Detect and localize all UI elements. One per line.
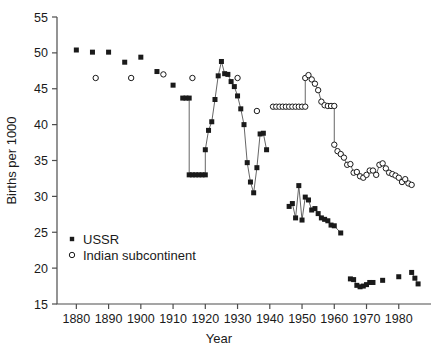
data-point-indian-subcontinent bbox=[128, 75, 133, 80]
data-point-ussr bbox=[370, 280, 375, 285]
data-point-ussr bbox=[187, 96, 192, 101]
data-point-indian-subcontinent bbox=[341, 155, 346, 160]
data-point-ussr bbox=[396, 274, 401, 279]
y-tick-label: 55 bbox=[34, 11, 48, 25]
y-tick-label: 30 bbox=[34, 190, 48, 204]
x-tick-label: 1890 bbox=[95, 312, 123, 326]
y-axis-title: Births per 1000 bbox=[4, 116, 19, 204]
data-point-ussr bbox=[338, 230, 343, 235]
data-point-indian-subcontinent bbox=[312, 81, 317, 86]
data-point-ussr bbox=[251, 190, 256, 195]
data-point-ussr bbox=[203, 147, 208, 152]
y-axis-tick-labels: 152025303540455055 bbox=[34, 11, 48, 312]
legend-label: Indian subcontinent bbox=[83, 248, 196, 263]
data-point-ussr bbox=[409, 270, 414, 275]
data-point-ussr bbox=[316, 211, 321, 216]
x-tick-label: 1970 bbox=[353, 312, 381, 326]
x-tick-label: 1960 bbox=[320, 312, 348, 326]
data-point-indian-subcontinent bbox=[93, 75, 98, 80]
data-point-indian-subcontinent bbox=[373, 172, 378, 177]
data-point-ussr bbox=[332, 223, 337, 228]
x-tick-label: 1950 bbox=[288, 312, 316, 326]
data-point-indian-subcontinent bbox=[380, 161, 385, 166]
data-point-ussr bbox=[248, 180, 253, 185]
x-tick-label: 1940 bbox=[256, 312, 284, 326]
data-point-ussr bbox=[216, 73, 221, 78]
y-tick-label: 50 bbox=[34, 46, 48, 60]
data-point-ussr bbox=[325, 218, 330, 223]
data-point-indian-subcontinent bbox=[315, 87, 320, 92]
x-tick-label: 1980 bbox=[385, 312, 413, 326]
data-point-ussr bbox=[90, 50, 95, 55]
data-point-ussr bbox=[229, 79, 234, 84]
x-tick-label: 1920 bbox=[191, 312, 219, 326]
data-point-ussr bbox=[306, 197, 311, 202]
data-point-ussr bbox=[245, 160, 250, 165]
data-point-ussr bbox=[242, 122, 247, 127]
data-point-ussr bbox=[212, 97, 217, 102]
data-point-ussr bbox=[225, 72, 230, 77]
legend-marker-filled-square-icon bbox=[70, 237, 74, 241]
data-point-ussr bbox=[74, 48, 79, 53]
legend-item-indian-subcontinent[interactable]: Indian subcontinent bbox=[69, 248, 196, 263]
data-point-ussr bbox=[296, 183, 301, 188]
y-tick-label: 20 bbox=[34, 262, 48, 276]
legend-label: USSR bbox=[83, 232, 119, 247]
data-point-indian-subcontinent bbox=[235, 75, 240, 80]
x-tick-label: 1900 bbox=[127, 312, 155, 326]
data-point-ussr bbox=[171, 83, 176, 88]
data-point-ussr bbox=[219, 59, 224, 64]
data-point-ussr bbox=[203, 172, 208, 177]
data-point-ussr bbox=[412, 276, 417, 281]
x-tick-label: 1930 bbox=[224, 312, 252, 326]
y-tick-label: 15 bbox=[34, 298, 48, 312]
data-point-indian-subcontinent bbox=[161, 72, 166, 77]
data-point-ussr bbox=[106, 50, 111, 55]
data-point-indian-subcontinent bbox=[332, 103, 337, 108]
data-point-ussr bbox=[290, 201, 295, 206]
data-point-ussr bbox=[312, 206, 317, 211]
data-point-ussr bbox=[351, 277, 356, 282]
data-point-ussr bbox=[254, 165, 259, 170]
y-tick-label: 35 bbox=[34, 154, 48, 168]
data-point-ussr bbox=[122, 60, 127, 65]
data-point-ussr bbox=[180, 96, 185, 101]
data-point-ussr bbox=[261, 131, 266, 136]
data-point-ussr bbox=[238, 106, 243, 111]
data-point-indian-subcontinent bbox=[348, 161, 353, 166]
data-point-ussr bbox=[235, 93, 240, 98]
x-tick-label: 1910 bbox=[159, 312, 187, 326]
data-point-ussr bbox=[416, 281, 421, 286]
y-tick-label: 40 bbox=[34, 118, 48, 132]
x-tick-label: 1880 bbox=[62, 312, 90, 326]
data-point-ussr bbox=[206, 128, 211, 133]
data-point-indian-subcontinent bbox=[332, 142, 337, 147]
data-point-indian-subcontinent bbox=[409, 182, 414, 187]
data-point-indian-subcontinent bbox=[190, 75, 195, 80]
data-point-ussr bbox=[264, 147, 269, 152]
y-tick-label: 45 bbox=[34, 82, 48, 96]
data-point-ussr bbox=[232, 84, 237, 89]
births-per-1000-scatter-chart: 1880189019001910192019301940195019601970… bbox=[0, 0, 438, 346]
data-point-ussr bbox=[154, 69, 159, 74]
data-point-ussr bbox=[293, 215, 298, 220]
chart-figure: 1880189019001910192019301940195019601970… bbox=[0, 0, 438, 346]
data-point-ussr bbox=[138, 55, 143, 60]
data-point-ussr bbox=[380, 278, 385, 283]
data-point-indian-subcontinent bbox=[254, 108, 259, 113]
data-point-ussr bbox=[300, 218, 305, 223]
y-tick-label: 25 bbox=[34, 226, 48, 240]
x-axis-tick-labels: 1880189019001910192019301940195019601970… bbox=[62, 312, 412, 326]
x-axis-title: Year bbox=[206, 331, 233, 346]
legend-marker-open-circle-icon bbox=[69, 252, 74, 257]
data-point-ussr bbox=[209, 119, 214, 124]
data-point-indian-subcontinent bbox=[303, 104, 308, 109]
